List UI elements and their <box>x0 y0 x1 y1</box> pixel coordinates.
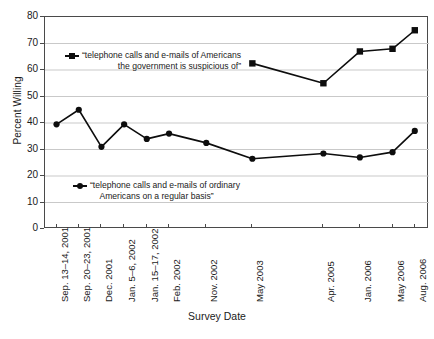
plot-area: “telephone calls and e-mails of American… <box>44 16 428 228</box>
line-chart: Percent Willing 01020304050607080 “telep… <box>0 0 434 339</box>
data-point <box>249 156 255 162</box>
data-point <box>357 154 363 160</box>
data-point <box>98 144 104 150</box>
data-point <box>121 121 127 127</box>
x-tick-mark <box>146 224 147 228</box>
data-point <box>203 140 209 146</box>
data-point <box>389 149 395 155</box>
x-tick-label: Aug. 2006 <box>418 259 428 302</box>
x-tick-mark <box>251 224 252 228</box>
y-tick-label: 60 <box>16 64 38 74</box>
x-tick-mark <box>123 224 124 228</box>
series-line-1 <box>57 110 415 159</box>
x-tick-label: Jan. 15–17, 2002 <box>150 229 160 302</box>
data-point <box>53 121 59 127</box>
x-tick-mark <box>414 224 415 228</box>
data-point <box>166 131 172 137</box>
x-axis-tick-labels: Sep. 13–14, 2001Sep. 20–23, 2001Dec. 200… <box>0 228 434 303</box>
legend-upper-line2: the government is suspicious of” <box>65 61 241 72</box>
x-tick-mark <box>392 224 393 228</box>
x-tick-mark <box>168 224 169 228</box>
x-tick-mark <box>78 224 79 228</box>
data-point <box>357 48 363 54</box>
data-point <box>249 60 255 66</box>
data-point <box>389 46 395 52</box>
y-tick-label: 40 <box>16 117 38 127</box>
x-tick-label: Sep. 13–14, 2001 <box>60 227 70 302</box>
y-tick-label: 70 <box>16 38 38 48</box>
data-point <box>412 128 418 134</box>
data-point <box>320 80 326 86</box>
x-tick-label: May 2006 <box>396 260 406 302</box>
legend-entry-suspicious: “telephone calls and e-mails of American… <box>65 50 241 71</box>
y-tick-label: 30 <box>16 144 38 154</box>
square-marker-icon <box>65 52 79 60</box>
x-tick-mark <box>205 224 206 228</box>
legend-lower-label1: “telephone calls and e-mails of ordinary <box>90 180 240 190</box>
series-line-0 <box>252 30 414 83</box>
legend-lower-line1: “telephone calls and e-mails of ordinary <box>73 180 240 191</box>
y-tick-label: 80 <box>16 11 38 21</box>
x-tick-label: Jan. 2006 <box>363 260 373 302</box>
data-point <box>412 27 418 33</box>
y-tick-label: 50 <box>16 91 38 101</box>
legend-entry-ordinary: “telephone calls and e-mails of ordinary… <box>73 180 240 201</box>
legend-upper-line1: “telephone calls and e-mails of American… <box>65 50 241 61</box>
x-tick-label: Apr. 2005 <box>326 261 336 302</box>
data-point <box>320 150 326 156</box>
x-axis-title: Survey Date <box>0 310 434 322</box>
x-tick-mark <box>322 224 323 228</box>
y-tick-label: 20 <box>16 170 38 180</box>
circle-marker-icon <box>73 182 87 190</box>
y-tick-label: 10 <box>16 197 38 207</box>
x-tick-label: Jan. 5–6, 2002 <box>127 239 137 302</box>
x-tick-label: Dec. 2001 <box>104 259 114 302</box>
legend-lower-line2: Americans on a regular basis” <box>73 191 240 202</box>
x-tick-label: May 2003 <box>255 260 265 302</box>
x-tick-mark <box>359 224 360 228</box>
x-tick-label: Sep. 20–23, 2001 <box>82 227 92 302</box>
x-tick-label: Feb. 2002 <box>172 259 182 302</box>
data-point <box>76 107 82 113</box>
data-point <box>144 136 150 142</box>
x-tick-label: Nov. 2002 <box>209 259 219 302</box>
x-tick-mark <box>100 224 101 228</box>
legend-upper-label1: “telephone calls and e-mails of American… <box>82 50 241 60</box>
x-tick-mark <box>56 224 57 228</box>
